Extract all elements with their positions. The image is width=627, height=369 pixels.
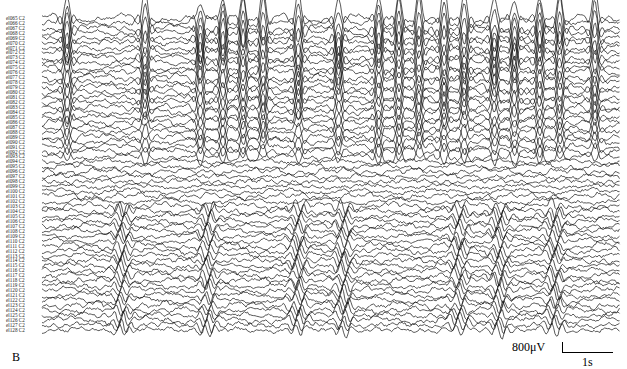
channel-trace [42,24,620,63]
scale-time-label: 1s [582,355,593,369]
scale-bar-horizontal [562,352,613,353]
channel-trace [42,207,620,225]
panel-label: B [12,350,20,365]
scale-amplitude-label: 800μV [512,340,545,355]
channel-label: el128 C2 [6,327,25,333]
channel-trace [42,262,620,278]
channel-labels: el065 C2el066 C2el067 C2el068 C2el069 C2… [6,15,25,333]
scale-bar-vertical [562,342,563,352]
channel-trace [42,183,620,189]
channel-trace [42,122,620,144]
channel-trace [42,0,620,37]
channel-trace [42,110,620,133]
channel-traces [42,0,620,339]
eeg-trace-plot: el065 C2el066 C2el067 C2el068 C2el069 C2… [0,0,627,369]
channel-trace [42,11,620,47]
channel-trace [42,292,620,309]
channel-trace [42,0,620,28]
channel-trace [42,75,620,107]
channel-trace [42,53,620,86]
channel-trace [42,162,620,170]
channel-trace [42,42,620,76]
